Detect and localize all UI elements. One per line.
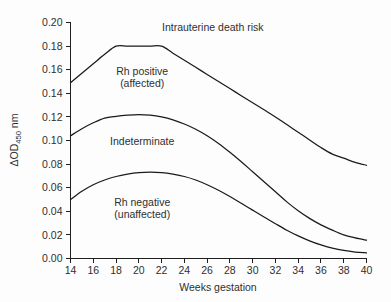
x-tick-label: 32	[270, 264, 282, 276]
x-tick-label: 36	[315, 264, 327, 276]
y-axis-ticks: 0.000.020.040.060.080.100.120.140.160.18…	[42, 16, 70, 264]
x-tick-label: 40	[361, 264, 373, 276]
y-tick: 0.06	[42, 181, 70, 193]
x-tick: 20	[133, 259, 145, 277]
x-tick-label: 24	[179, 264, 191, 276]
x-tick: 22	[156, 259, 168, 277]
y-axis-title: ΔOD450 nm	[8, 113, 23, 166]
y-tick: 0.10	[42, 134, 70, 146]
y-tick: 0.18	[42, 40, 70, 52]
y-tick-label: 0.12	[42, 111, 63, 123]
x-tick-label: 16	[87, 264, 99, 276]
curve-annotations-group: Intrauterine death riskRh positive(affec…	[110, 21, 264, 220]
x-tick: 26	[201, 259, 213, 277]
y-tick-label: 0.08	[42, 158, 63, 170]
svg-text:ΔOD450 nm: ΔOD450 nm	[8, 113, 23, 166]
curve-upper-boundary	[71, 45, 367, 165]
x-tick: 36	[315, 259, 327, 277]
x-tick: 40	[361, 259, 373, 277]
x-tick: 38	[338, 259, 350, 277]
x-tick: 34	[292, 259, 304, 277]
y-tick: 0.20	[42, 16, 70, 28]
y-tick: 0.02	[42, 229, 70, 241]
x-tick-label: 14	[65, 264, 77, 276]
annotation-line-2: (affected)	[120, 77, 164, 89]
x-tick: 24	[179, 259, 191, 277]
x-tick-label: 34	[292, 264, 304, 276]
y-axis-title-subscript: 450	[14, 131, 23, 144]
x-tick-label: 38	[338, 264, 350, 276]
y-tick-label: 0.02	[42, 229, 63, 241]
annotation-line-1: Indeterminate	[110, 135, 174, 147]
annotation-indeterminate: Indeterminate	[110, 135, 174, 147]
x-tick: 14	[65, 259, 77, 277]
y-tick-label: 0.18	[42, 40, 63, 52]
y-axis-title-prefix: ΔOD	[8, 143, 20, 166]
y-tick: 0.00	[42, 252, 70, 264]
x-axis-title: Weeks gestation	[179, 281, 257, 293]
y-tick: 0.08	[42, 158, 70, 170]
y-tick-label: 0.20	[42, 16, 63, 28]
y-tick-label: 0.14	[42, 87, 63, 99]
annotation-line-1: Rh positive	[116, 65, 168, 77]
y-tick-label: 0.10	[42, 134, 63, 146]
y-tick-label: 0.04	[42, 205, 63, 217]
annotation-rh-negative: Rh negative(unaffected)	[114, 196, 170, 220]
data-curves-group	[71, 45, 367, 252]
annotation-line-2: (unaffected)	[114, 208, 170, 220]
annotation-line-1: Rh negative	[114, 196, 170, 208]
x-tick-label: 18	[110, 264, 122, 276]
annotation-rh-positive: Rh positive(affected)	[116, 65, 168, 89]
annotation-intrauterine-death-risk: Intrauterine death risk	[162, 21, 264, 33]
y-tick: 0.16	[42, 63, 70, 75]
x-axis-ticks: 1416182022242628303234363840	[65, 259, 373, 277]
x-tick: 32	[270, 259, 282, 277]
y-tick: 0.14	[42, 87, 70, 99]
x-tick: 16	[87, 259, 99, 277]
x-tick-label: 20	[133, 264, 145, 276]
x-tick: 30	[247, 259, 259, 277]
x-tick-label: 22	[156, 264, 168, 276]
clinical-chart: 0.000.020.040.060.080.100.120.140.160.18…	[0, 0, 391, 302]
y-axis-title-suffix: nm	[8, 113, 20, 131]
annotation-line-1: Intrauterine death risk	[162, 21, 264, 33]
y-tick-label: 0.00	[42, 252, 63, 264]
x-tick-label: 28	[224, 264, 236, 276]
x-tick: 18	[110, 259, 122, 277]
y-tick: 0.12	[42, 111, 70, 123]
x-tick-label: 26	[201, 264, 213, 276]
x-tick-label: 30	[247, 264, 259, 276]
y-tick: 0.04	[42, 205, 70, 217]
y-tick-label: 0.06	[42, 181, 63, 193]
x-tick: 28	[224, 259, 236, 277]
chart-page: 0.000.020.040.060.080.100.120.140.160.18…	[0, 0, 391, 302]
y-tick-label: 0.16	[42, 63, 63, 75]
